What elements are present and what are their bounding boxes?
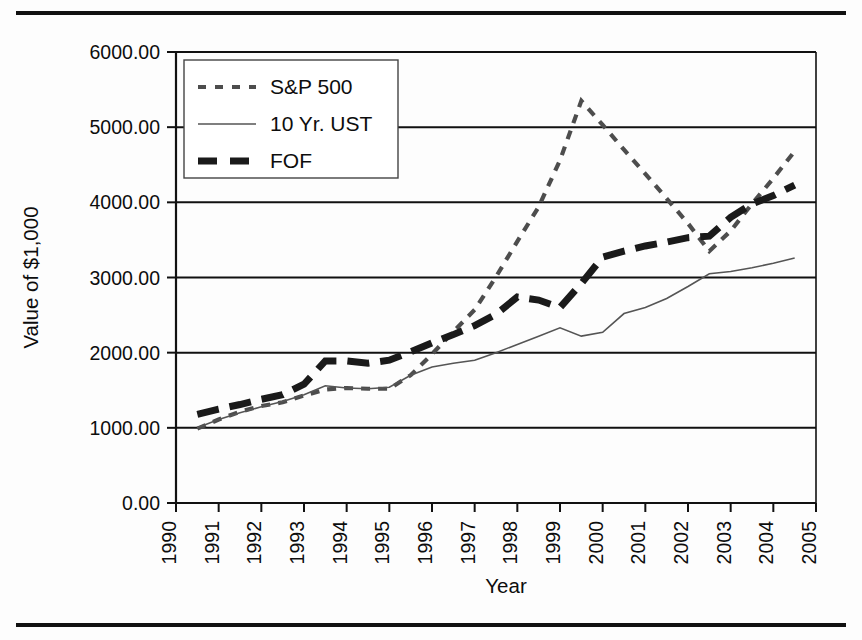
- y-tick-label: 1000.00: [90, 417, 161, 439]
- y-tick-label: 5000.00: [90, 116, 161, 138]
- line-chart-figure: 0.001000.002000.003000.004000.005000.006…: [0, 20, 862, 620]
- x-tick-label: 2002: [670, 521, 692, 564]
- legend-label: 10 Yr. UST: [270, 112, 372, 135]
- y-axis-title: Value of $1,000: [19, 206, 42, 348]
- x-tick-label: 1995: [371, 521, 393, 565]
- y-tick-label: 0.00: [122, 492, 160, 514]
- x-tick-label: 1996: [414, 521, 436, 564]
- x-tick-label: 2000: [585, 521, 607, 565]
- x-tick-label: 1998: [499, 521, 521, 564]
- top-divider-rule: [16, 11, 846, 15]
- x-tick-label: 2001: [627, 521, 649, 564]
- x-tick-label: 1997: [457, 521, 479, 564]
- legend-label: S&P 500: [270, 75, 353, 98]
- y-tick-label: 2000.00: [90, 342, 161, 364]
- x-tick-label: 1999: [542, 521, 564, 564]
- x-tick-label: 1990: [158, 521, 180, 565]
- bottom-divider-rule: [16, 623, 846, 627]
- chart-canvas: 0.001000.002000.003000.004000.005000.006…: [0, 20, 862, 620]
- chart-page: 0.001000.002000.003000.004000.005000.006…: [0, 0, 862, 640]
- x-tick-label: 2004: [755, 521, 777, 565]
- x-axis-title: Year: [485, 574, 527, 597]
- x-tick-label: 1991: [201, 521, 223, 564]
- legend-label: FOF: [270, 149, 312, 172]
- y-tick-label: 6000.00: [90, 41, 161, 63]
- x-tick-label: 2005: [798, 521, 820, 565]
- chart-legend: S&P 50010 Yr. USTFOF: [184, 60, 398, 178]
- x-tick-label: 2003: [713, 521, 735, 564]
- y-tick-label: 4000.00: [90, 191, 161, 213]
- x-tick-label: 1994: [329, 521, 351, 565]
- x-tick-label: 1993: [286, 521, 308, 564]
- y-tick-label: 3000.00: [90, 267, 161, 289]
- x-tick-label: 1992: [243, 521, 265, 564]
